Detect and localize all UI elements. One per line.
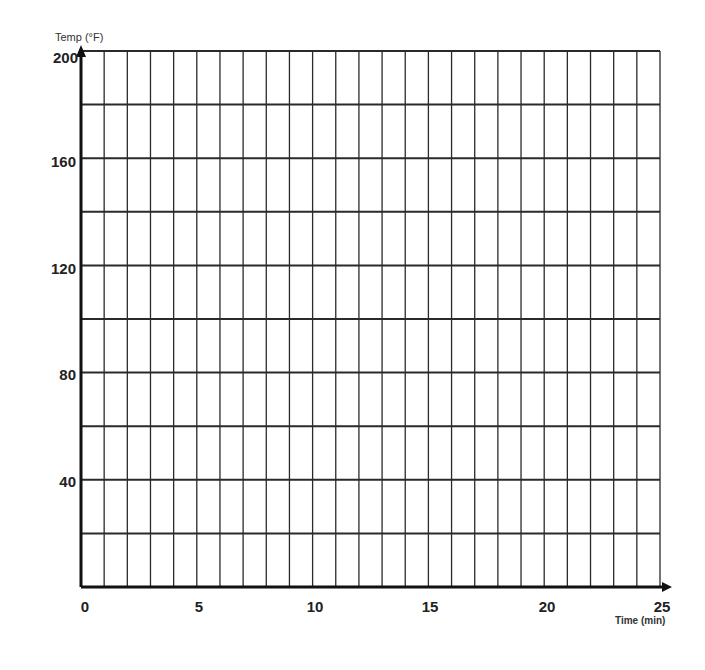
y-tick-200: 200	[38, 49, 78, 66]
x-tick-15: 15	[410, 598, 450, 615]
x-tick-5: 5	[179, 598, 219, 615]
x-tick-0: 0	[65, 598, 105, 615]
x-tick-10: 10	[295, 598, 335, 615]
x-tick-20: 20	[527, 598, 567, 615]
x-axis-arrow-icon	[662, 582, 672, 592]
y-axis-label: Temp (°F)	[55, 31, 103, 43]
graph-grid	[0, 0, 705, 670]
y-tick-80: 80	[36, 366, 76, 383]
x-tick-25: 25	[642, 598, 682, 615]
y-tick-120: 120	[36, 260, 76, 277]
y-tick-160: 160	[36, 153, 76, 170]
x-axis-label: Time (min)	[615, 615, 665, 626]
y-tick-40: 40	[36, 473, 76, 490]
